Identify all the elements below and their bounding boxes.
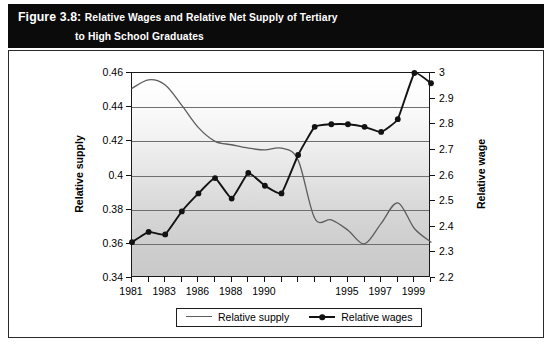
x-axis-tick-label: 1986 bbox=[186, 285, 209, 297]
data-point-marker bbox=[245, 170, 251, 176]
x-axis-tick-mark bbox=[314, 277, 315, 282]
y-axis-tick-label-right: 2.7 bbox=[439, 143, 454, 155]
x-axis-tick-mark bbox=[297, 277, 298, 282]
x-axis-tick-mark bbox=[281, 277, 282, 282]
y-axis-tick-mark-right bbox=[430, 98, 435, 99]
data-point-marker bbox=[262, 183, 268, 189]
data-point-marker bbox=[328, 121, 334, 127]
x-axis-tick-mark bbox=[397, 277, 398, 282]
x-axis-tick-mark bbox=[413, 277, 414, 282]
y-axis-tick-label-right: 2.6 bbox=[439, 169, 454, 181]
x-axis-tick-label: 1995 bbox=[335, 285, 358, 297]
data-point-marker bbox=[179, 208, 185, 214]
y-axis-tick-mark-left bbox=[126, 72, 131, 73]
y-axis-tick-label-right: 2.2 bbox=[439, 271, 454, 283]
chart-legend: Relative supply Relative wages bbox=[176, 308, 422, 327]
y-axis-tick-mark-right bbox=[430, 175, 435, 176]
y-axis-tick-label-left: 0.46 bbox=[81, 66, 123, 78]
x-axis-tick-mark bbox=[330, 277, 331, 282]
y-axis-tick-mark-right bbox=[430, 200, 435, 201]
y-axis-tick-label-right: 2.9 bbox=[439, 92, 454, 104]
legend-line-icon-supply bbox=[186, 312, 212, 322]
y-axis-tick-mark-left bbox=[126, 175, 131, 176]
legend-item-relative-supply[interactable]: Relative supply bbox=[186, 311, 289, 323]
x-axis-tick-mark bbox=[131, 277, 132, 282]
legend-label-supply: Relative supply bbox=[218, 311, 289, 323]
y-axis-tick-label-left: 0.36 bbox=[81, 237, 123, 249]
x-axis-tick-label: 1988 bbox=[219, 285, 242, 297]
figure-title-bar: Figure 3.8: Relative Wages and Relative … bbox=[8, 4, 544, 48]
y-axis-tick-mark-right bbox=[430, 149, 435, 150]
x-axis-tick-mark bbox=[148, 277, 149, 282]
x-axis-tick-mark bbox=[264, 277, 265, 282]
y-axis-tick-mark-left bbox=[126, 243, 131, 244]
data-point-marker bbox=[162, 232, 168, 238]
data-point-marker bbox=[212, 175, 218, 181]
data-point-marker bbox=[395, 116, 401, 122]
legend-item-relative-wages[interactable]: Relative wages bbox=[309, 311, 412, 323]
x-axis-tick-mark bbox=[347, 277, 348, 282]
x-axis-tick-label: 1997 bbox=[369, 285, 392, 297]
data-point-marker bbox=[196, 191, 202, 197]
data-point-marker bbox=[345, 121, 351, 127]
x-axis-tick-label: 1983 bbox=[153, 285, 176, 297]
y-axis-tick-label-left: 0.34 bbox=[81, 271, 123, 283]
figure-title-text-1: Relative Wages and Relative Net Supply o… bbox=[85, 12, 338, 23]
y-axis-tick-mark-left bbox=[126, 140, 131, 141]
y-axis-tick-mark-right bbox=[430, 72, 435, 73]
y-axis-tick-label-left: 0.4 bbox=[81, 169, 123, 181]
x-axis-tick-mark bbox=[430, 277, 431, 282]
figure-title-line-1: Figure 3.8: Relative Wages and Relative … bbox=[18, 8, 544, 27]
x-axis-tick-mark bbox=[380, 277, 381, 282]
x-axis-tick-mark bbox=[181, 277, 182, 282]
x-axis-tick-mark bbox=[231, 277, 232, 282]
x-axis-tick-label: 1990 bbox=[252, 285, 275, 297]
legend-line-marker-icon-wages bbox=[309, 312, 335, 322]
data-point-marker bbox=[362, 124, 368, 130]
x-axis-tick-mark bbox=[247, 277, 248, 282]
series-lines bbox=[132, 73, 431, 278]
y-axis-title-right: Relative wage bbox=[475, 139, 487, 209]
y-axis-tick-label-left: 0.42 bbox=[81, 134, 123, 146]
figure-label: Figure 3.8: bbox=[18, 10, 81, 24]
y-axis-tick-label-right: 2.3 bbox=[439, 245, 454, 257]
y-axis-tick-label-left: 0.44 bbox=[81, 100, 123, 112]
data-point-marker bbox=[279, 191, 285, 197]
data-point-marker bbox=[312, 124, 318, 130]
figure-title-text-2: to High School Graduates bbox=[75, 31, 204, 42]
plot-area bbox=[131, 72, 430, 277]
figure-container: Figure 3.8: Relative Wages and Relative … bbox=[0, 0, 552, 347]
y-axis-tick-mark-right bbox=[430, 226, 435, 227]
x-axis-tick-mark bbox=[164, 277, 165, 282]
x-axis-tick-mark bbox=[364, 277, 365, 282]
x-axis-tick-label: 1981 bbox=[119, 285, 142, 297]
figure-title-line-2: to High School Graduates bbox=[18, 27, 544, 46]
x-axis-tick-label: 1999 bbox=[402, 285, 425, 297]
y-axis-tick-label-right: 3 bbox=[439, 66, 445, 78]
y-axis-tick-label-right: 2.8 bbox=[439, 117, 454, 129]
data-point-marker bbox=[295, 152, 301, 158]
y-axis-tick-mark-left bbox=[126, 106, 131, 107]
data-point-marker bbox=[411, 70, 417, 76]
y-axis-tick-mark-right bbox=[430, 123, 435, 124]
y-axis-tick-label-right: 2.4 bbox=[439, 220, 454, 232]
y-axis-tick-mark-left bbox=[126, 209, 131, 210]
x-axis-tick-mark bbox=[197, 277, 198, 282]
data-point-marker bbox=[378, 129, 384, 135]
x-axis-tick-mark bbox=[214, 277, 215, 282]
y-axis-tick-mark-right bbox=[430, 251, 435, 252]
legend-label-wages: Relative wages bbox=[341, 311, 412, 323]
data-point-marker bbox=[146, 229, 152, 235]
data-point-marker bbox=[229, 196, 235, 202]
data-point-marker bbox=[428, 80, 434, 86]
y-axis-tick-label-right: 2.5 bbox=[439, 194, 454, 206]
y-axis-tick-label-left: 0.38 bbox=[81, 203, 123, 215]
